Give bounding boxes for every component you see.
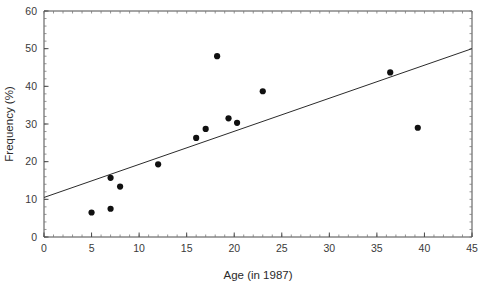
scatter-plot-figure: 051015202530354045 0102030405060 Age (in… [0,0,490,288]
data-point [387,69,393,75]
data-point [214,53,220,59]
x-tick-label: 10 [133,242,145,254]
y-tick-label: 50 [25,42,37,54]
data-point [415,125,421,131]
x-tick-label: 0 [41,242,47,254]
data-point [88,209,94,215]
y-tick-label: 60 [25,5,37,17]
y-tick-label: 40 [25,80,37,92]
y-tick-label: 0 [31,231,37,243]
chart-canvas: 051015202530354045 0102030405060 Age (in… [0,0,490,288]
x-axis-title: Age (in 1987) [223,269,292,281]
y-axis-title: Frequency (%) [3,86,15,162]
data-point [260,88,266,94]
chart-background [0,0,490,288]
x-tick-label: 25 [276,242,288,254]
data-point [117,183,123,189]
data-point [155,161,161,167]
data-point [234,120,240,126]
x-tick-label: 20 [228,242,240,254]
data-point [203,126,209,132]
x-tick-label: 15 [181,242,193,254]
data-point [193,135,199,141]
y-tick-label: 10 [25,193,37,205]
x-tick-label: 5 [89,242,95,254]
x-tick-label: 45 [466,242,478,254]
data-point [107,206,113,212]
data-point [107,175,113,181]
y-tick-label: 20 [25,155,37,167]
x-tick-label: 35 [371,242,383,254]
x-tick-label: 30 [323,242,335,254]
y-tick-label: 30 [25,118,37,130]
data-point [225,115,231,121]
x-tick-label: 40 [419,242,431,254]
